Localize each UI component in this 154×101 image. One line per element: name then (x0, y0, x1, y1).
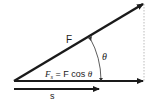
component-label-equation: = F cos (53, 69, 88, 79)
angle-label: θ (102, 51, 107, 62)
component-label: Fs = F cos θ (44, 69, 93, 80)
diagram-svg: F θ Fs = F cos θ s (0, 0, 154, 101)
force-component-diagram: F θ Fs = F cos θ s (0, 0, 154, 101)
displacement-label: s (50, 91, 55, 101)
component-label-theta: θ (88, 69, 93, 79)
force-label: F (66, 34, 72, 45)
